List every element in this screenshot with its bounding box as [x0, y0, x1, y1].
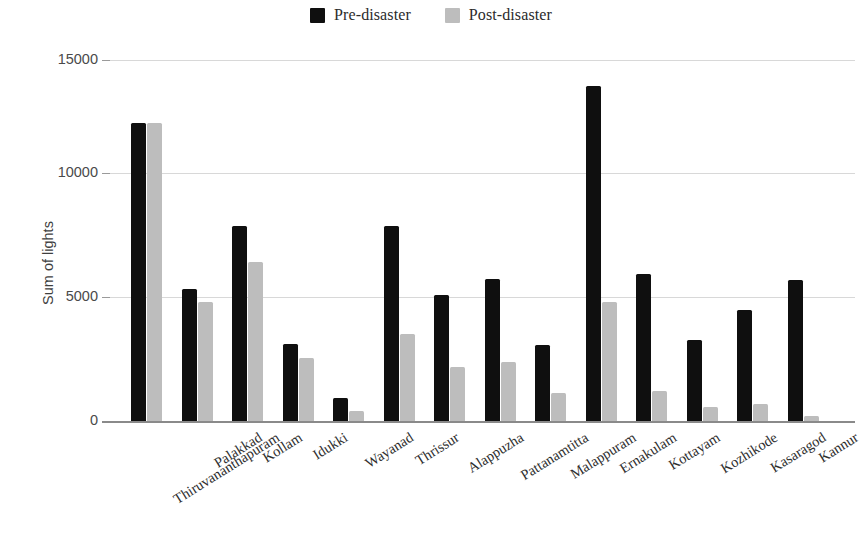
bar-post-disaster-ernakulam [602, 302, 617, 421]
bar-post-disaster-pattanamtitta [501, 362, 516, 421]
x-tick-label-kozhikode: Kozhikode [717, 429, 780, 477]
y-tick-mark-15000 [102, 60, 110, 61]
x-tick-label-wayanad: Wayanad [362, 429, 416, 472]
bar-pre-disaster-thrissur [384, 226, 399, 421]
bar-series-container [110, 60, 855, 421]
bar-pre-disaster-wayanad [333, 398, 348, 421]
bar-pre-disaster-kannur [788, 280, 803, 421]
bar-post-disaster-thiruvananthapuram [147, 123, 162, 421]
y-tick-label-5000: 5000 [18, 288, 98, 304]
bar-pre-disaster-pattanamtitta [485, 279, 500, 421]
bar-pre-disaster-ernakulam [586, 86, 601, 421]
bar-chart: Pre-disaster Post-disaster Sum of lights… [0, 0, 862, 540]
legend-label-post-disaster: Post-disaster [469, 6, 552, 24]
legend-item-pre-disaster: Pre-disaster [310, 6, 411, 24]
bar-post-disaster-kozhikode [703, 407, 718, 421]
bar-pre-disaster-alappuzha [434, 295, 449, 421]
x-tick-label-idukki: Idukki [309, 429, 350, 463]
bar-post-disaster-kollam [248, 262, 263, 421]
bar-pre-disaster-palakkad [182, 289, 197, 421]
y-axis-title: Sum of lights [40, 203, 56, 323]
bar-pre-disaster-kottayam [636, 274, 651, 421]
y-tick-label-15000: 15000 [18, 51, 98, 67]
legend-swatch-icon-pre-disaster [310, 8, 325, 23]
bar-pre-disaster-kozhikode [687, 340, 702, 421]
bar-post-disaster-kasaragod [753, 404, 768, 421]
bar-post-disaster-malappuram [551, 393, 566, 421]
bar-post-disaster-idukki [299, 358, 314, 421]
bar-pre-disaster-idukki [283, 344, 298, 421]
chart-legend: Pre-disaster Post-disaster [0, 6, 862, 24]
plot-area [110, 60, 855, 421]
bar-post-disaster-kottayam [652, 391, 667, 421]
bar-pre-disaster-kasaragod [737, 310, 752, 421]
y-tick-label-10000: 10000 [18, 164, 98, 180]
legend-label-pre-disaster: Pre-disaster [334, 6, 411, 24]
legend-item-post-disaster: Post-disaster [445, 6, 552, 24]
legend-swatch-icon-post-disaster [445, 8, 460, 23]
bar-pre-disaster-kollam [232, 226, 247, 421]
x-tick-label-thiruvananthapuram: Thiruvananthapuram [170, 429, 282, 508]
bar-post-disaster-palakkad [198, 302, 213, 421]
bar-pre-disaster-malappuram [535, 345, 550, 421]
y-tick-mark-10000 [102, 173, 110, 174]
x-axis-labels: ThiruvananthapuramPalakkadKollamIdukkiWa… [0, 421, 862, 540]
bar-post-disaster-wayanad [349, 411, 364, 421]
bar-post-disaster-alappuzha [450, 367, 465, 421]
bar-pre-disaster-thiruvananthapuram [131, 123, 146, 421]
bar-post-disaster-thrissur [400, 334, 415, 421]
x-tick-label-thrissur: Thrissur [412, 429, 462, 469]
y-tick-mark-5000 [102, 297, 110, 298]
